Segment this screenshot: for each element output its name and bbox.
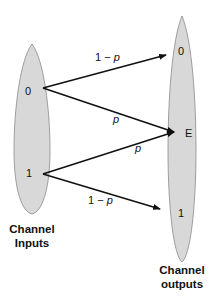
edge-0-to-E <box>43 88 174 132</box>
edge-label-0-E: p <box>112 113 119 125</box>
input-ellipse <box>14 44 50 214</box>
outputs-caption-line2: outputs <box>161 278 203 290</box>
input-symbol-0: 0 <box>25 85 31 97</box>
inputs-caption-line2: Inputs <box>15 237 50 249</box>
edge-label-1-1: 1 − p <box>88 194 113 206</box>
output-symbol-1: 1 <box>178 207 184 219</box>
edge-label-0-0: 1 − p <box>95 51 120 63</box>
output-symbol-E: E <box>185 127 192 139</box>
edge-label-1-E: p <box>134 142 141 154</box>
erasure-channel-diagram: 1 − p p p 1 − p 0 1 0 E 1 Channel Inputs… <box>0 0 215 301</box>
input-symbol-1: 1 <box>26 167 32 179</box>
inputs-caption-line1: Channel <box>9 223 54 235</box>
output-symbol-0: 0 <box>178 45 184 57</box>
outputs-caption-line1: Channel <box>159 264 204 276</box>
edge-1-to-E <box>43 132 174 174</box>
